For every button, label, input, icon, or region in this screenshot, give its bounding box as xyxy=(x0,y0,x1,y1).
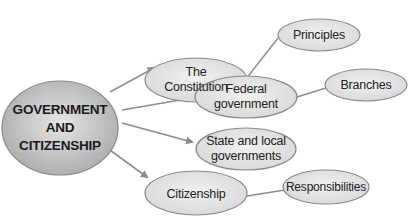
topic-citizenship: Citizenship xyxy=(146,172,246,216)
subtopic-responsibilities: Responsibilities xyxy=(283,170,369,204)
topic-line-1: Citizenship xyxy=(167,187,226,202)
topic-line-2: governments xyxy=(211,149,281,164)
subtopic-label: Principles xyxy=(293,28,345,43)
topic-state-local: State and local governments xyxy=(196,128,296,170)
central-line-1: GOVERNMENT xyxy=(13,101,108,119)
topic-line-1: State and local xyxy=(206,134,286,149)
subtopic-label: Branches xyxy=(340,78,391,93)
topic-line-1: Federal xyxy=(226,82,267,97)
topic-federal-government: Federal government xyxy=(196,76,296,118)
central-line-2: AND xyxy=(46,119,75,137)
topic-line-2: government xyxy=(214,97,278,112)
central-node-label: GOVERNMENT AND CITIZENSHIP xyxy=(4,82,116,174)
central-line-3: CITIZENSHIP xyxy=(19,137,101,155)
subtopic-branches: Branches xyxy=(325,69,407,101)
subtopic-principles: Principles xyxy=(278,19,360,51)
subtopic-label: Responsibilities xyxy=(286,180,366,195)
